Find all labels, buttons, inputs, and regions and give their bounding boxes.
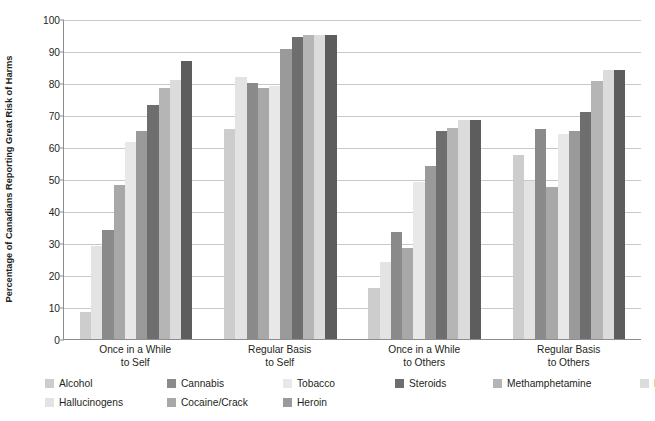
bar xyxy=(269,86,280,339)
bar xyxy=(402,248,413,339)
bar xyxy=(558,134,569,339)
bar xyxy=(114,185,125,339)
bar-groups xyxy=(64,20,641,339)
bar xyxy=(170,80,181,339)
bar xyxy=(436,131,447,339)
x-axis-label: Once in a Whileto Others xyxy=(352,344,497,374)
bar xyxy=(413,182,424,339)
y-axis-title: Percentage of Canadians Reporting Great … xyxy=(0,18,18,340)
y-tick-label: 90 xyxy=(26,47,60,58)
bar xyxy=(314,35,325,339)
bar xyxy=(102,230,113,339)
y-tick-label: 80 xyxy=(26,79,60,90)
y-tick-label: 10 xyxy=(26,303,60,314)
bar xyxy=(603,70,614,339)
legend-item[interactable]: Methamphetamine xyxy=(493,374,591,392)
y-tick-label: 50 xyxy=(26,175,60,186)
legend-label: Cocaine/Crack xyxy=(181,397,248,408)
legend-swatch-icon xyxy=(45,398,54,407)
bar xyxy=(524,181,535,339)
legend-swatch-icon xyxy=(283,379,292,388)
y-tick-label: 20 xyxy=(26,271,60,282)
legend-item[interactable]: Alcohol xyxy=(45,374,92,392)
legend-item[interactable]: Hallucinogens xyxy=(45,393,123,411)
bar xyxy=(513,155,524,339)
bar xyxy=(258,88,269,339)
bar xyxy=(368,288,379,339)
bar-group-inner xyxy=(513,20,626,339)
bar-group xyxy=(64,20,208,339)
legend-label: Alcohol xyxy=(59,378,92,389)
bar xyxy=(125,142,136,339)
bar xyxy=(280,49,291,339)
bar-group-inner xyxy=(80,20,193,339)
bar xyxy=(470,120,481,339)
bar xyxy=(91,246,102,339)
legend-swatch-icon xyxy=(167,379,176,388)
legend-swatch-icon xyxy=(395,379,404,388)
bar-group xyxy=(208,20,352,339)
legend-swatch-icon xyxy=(283,398,292,407)
bar xyxy=(447,128,458,339)
bar-group-inner xyxy=(368,20,481,339)
legend-swatch-icon xyxy=(167,398,176,407)
legend-swatch-icon xyxy=(45,379,54,388)
bar xyxy=(303,35,314,339)
bar xyxy=(380,262,391,339)
bar xyxy=(136,131,147,339)
legend-item[interactable]: Ecstasy xyxy=(640,374,655,392)
bar xyxy=(591,81,602,339)
y-tick-label: 40 xyxy=(26,207,60,218)
legend-swatch-icon xyxy=(640,379,649,388)
legend-label: Methamphetamine xyxy=(507,378,591,389)
bar-group xyxy=(353,20,497,339)
legend-item[interactable]: Heroin xyxy=(283,393,327,411)
bar xyxy=(391,232,402,339)
legend-item[interactable]: Steroids xyxy=(395,374,446,392)
legend-label: Steroids xyxy=(409,378,446,389)
x-axis-label: Once in a Whileto Self xyxy=(63,344,208,374)
bar xyxy=(580,112,591,339)
legend-label: Hallucinogens xyxy=(59,397,123,408)
bar xyxy=(535,129,546,339)
x-axis-labels: Once in a Whileto SelfRegular Basisto Se… xyxy=(63,344,641,374)
legend-item[interactable]: Tobacco xyxy=(283,374,335,392)
x-axis-label: Regular Basisto Self xyxy=(208,344,353,374)
bar xyxy=(569,131,580,339)
y-axis-title-text: Percentage of Canadians Reporting Great … xyxy=(4,56,14,303)
y-tick-label: 0 xyxy=(26,335,60,346)
plot-area xyxy=(63,20,641,340)
legend-row: HallucinogensCocaine/CrackHeroin xyxy=(45,393,645,411)
legend: AlcoholCannabisTobaccoSteroidsMethamphet… xyxy=(45,374,645,416)
bar-group xyxy=(497,20,641,339)
legend-label: Heroin xyxy=(297,397,327,408)
bar xyxy=(181,61,192,339)
bar xyxy=(80,312,91,339)
legend-label: Cannabis xyxy=(181,378,224,389)
legend-label: Tobacco xyxy=(297,378,335,389)
bar xyxy=(247,83,258,339)
bar xyxy=(325,35,336,339)
y-axis-ticks: 1009080706050403020100 xyxy=(20,20,60,340)
bar xyxy=(159,88,170,339)
x-axis-label: Regular Basisto Others xyxy=(497,344,642,374)
bar-chart: Percentage of Canadians Reporting Great … xyxy=(0,0,655,421)
bar xyxy=(425,166,436,339)
legend-swatch-icon xyxy=(493,379,502,388)
bar xyxy=(147,105,158,339)
legend-item[interactable]: Cocaine/Crack xyxy=(167,393,248,411)
bar xyxy=(235,77,246,339)
y-tick-label: 30 xyxy=(26,239,60,250)
bar-group-inner xyxy=(224,20,337,339)
y-tick-label: 60 xyxy=(26,143,60,154)
y-tick-label: 70 xyxy=(26,111,60,122)
bar xyxy=(458,120,469,339)
bar xyxy=(546,187,557,339)
bar xyxy=(224,129,235,339)
y-tick-label: 100 xyxy=(26,15,60,26)
legend-row: AlcoholCannabisTobaccoSteroidsMethamphet… xyxy=(45,374,645,392)
bar xyxy=(614,70,625,339)
bar xyxy=(292,37,303,339)
legend-item[interactable]: Cannabis xyxy=(167,374,224,392)
